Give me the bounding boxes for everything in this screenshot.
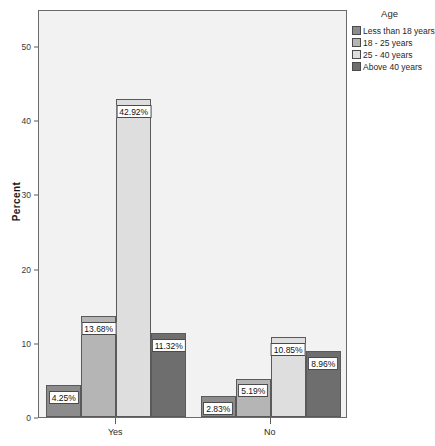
bar-value-label: 8.96% — [308, 357, 338, 370]
legend-item-2: 25 - 40 years — [352, 49, 433, 60]
bar — [116, 99, 151, 417]
legend-item-label: 25 - 40 years — [363, 50, 413, 60]
legend-title: Age — [346, 8, 433, 19]
bar-value-label: 11.32% — [152, 339, 186, 352]
legend: Age Less than 18 years18 - 25 years25 - … — [352, 8, 433, 73]
x-tick-mark — [270, 418, 271, 424]
y-tick-label: 30 — [3, 190, 31, 200]
y-tick-label: 40 — [3, 116, 31, 126]
y-tick-label: 20 — [3, 265, 31, 275]
bar-value-label: 13.68% — [81, 322, 116, 335]
legend-item-label: 18 - 25 years — [363, 38, 413, 48]
legend-item-label: Above 40 years — [363, 62, 422, 72]
y-tick-label: 0 — [3, 413, 31, 423]
bar-value-label: 10.85% — [271, 343, 306, 356]
plot-area: 4.25%13.68%42.92%11.32%2.83%5.19%10.85%8… — [38, 10, 347, 418]
legend-item-3: Above 40 years — [352, 61, 433, 72]
x-tick-label: No — [264, 427, 276, 437]
x-tick-label: Yes — [108, 427, 123, 437]
x-tick-mark — [115, 418, 116, 424]
legend-entries: Less than 18 years18 - 25 years25 - 40 y… — [352, 25, 433, 72]
bar-value-label: 4.25% — [49, 391, 79, 404]
legend-swatch-icon — [352, 26, 361, 35]
y-tick-label: 50 — [3, 42, 31, 52]
bar-value-label: 42.92% — [116, 105, 151, 118]
legend-item-1: 18 - 25 years — [352, 37, 433, 48]
legend-item-label: Less than 18 years — [363, 26, 435, 36]
legend-swatch-icon — [352, 62, 361, 71]
y-tick-label: 10 — [3, 339, 31, 349]
legend-swatch-icon — [352, 38, 361, 47]
legend-item-0: Less than 18 years — [352, 25, 433, 36]
bar-value-label: 2.83% — [203, 402, 233, 415]
plot-inner: 4.25%13.68%42.92%11.32%2.83%5.19%10.85%8… — [39, 11, 346, 417]
bar-value-label: 5.19% — [238, 384, 268, 397]
legend-swatch-icon — [352, 50, 361, 59]
y-axis: 01020304050 — [0, 0, 38, 446]
